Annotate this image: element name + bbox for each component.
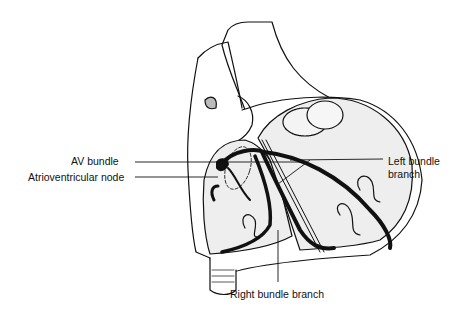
label-atrioventricular-node: Atrioventricular node bbox=[28, 171, 124, 183]
label-left-bundle-line2: branch bbox=[388, 168, 420, 180]
heart-diagram: AV bundle Atrioventricular node Left bun… bbox=[0, 0, 469, 313]
label-av-bundle: AV bundle bbox=[71, 155, 119, 167]
label-right-bundle-branch: Right bundle branch bbox=[230, 288, 324, 300]
label-left-bundle-line1: Left bundle bbox=[388, 155, 440, 167]
